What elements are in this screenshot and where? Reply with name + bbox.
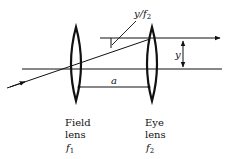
- incoming-ray-arrow: [10, 82, 25, 87]
- separation-left-dot: [78, 86, 81, 89]
- field-lens-focal-label: f1: [65, 142, 74, 155]
- eye-lens-caption-line2: lens: [145, 129, 166, 140]
- incoming-ray-line: [7, 39, 150, 88]
- eye-lens-focal-label: f2: [145, 142, 154, 155]
- height-label: y: [174, 49, 181, 60]
- angle-leader-line: [112, 21, 136, 45]
- angle-label: y/f2: [133, 8, 151, 21]
- field-lens-caption-line1: Field: [65, 117, 91, 128]
- eye-lens-caption-line1: Eye: [145, 117, 164, 128]
- field-lens-caption-line2: lens: [65, 129, 86, 140]
- separation-right-dot: [148, 86, 151, 89]
- eyepiece-ray-diagram: y/f2 a y Field lens f1 Eye lens f2: [0, 0, 226, 159]
- separation-label: a: [111, 75, 117, 86]
